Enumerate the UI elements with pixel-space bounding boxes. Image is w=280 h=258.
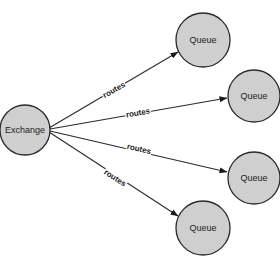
edge-exchange-to-queue3: routes: [50, 131, 227, 172]
edge-exchange-to-queue1: routes: [49, 52, 178, 128]
node-label-queue: Queue: [240, 91, 267, 101]
node-queue-3: Queue: [228, 152, 280, 204]
edge-exchange-to-queue4: routes: [49, 132, 178, 216]
node-queue-2: Queue: [228, 70, 280, 122]
nodes: Exchange Queue Queue Queue Queue: [0, 13, 280, 255]
node-queue-4: Queue: [176, 201, 230, 255]
node-label-queue: Queue: [189, 223, 216, 233]
node-exchange: Exchange: [0, 105, 50, 155]
node-queue-1: Queue: [176, 13, 230, 67]
edges: routes routes routes routes: [49, 52, 227, 216]
edge-exchange-to-queue2: routes: [50, 98, 227, 129]
node-label-queue: Queue: [240, 173, 267, 183]
node-label-queue: Queue: [189, 35, 216, 45]
routing-diagram: routes routes routes routes: [0, 0, 280, 258]
node-label-exchange: Exchange: [5, 125, 45, 135]
